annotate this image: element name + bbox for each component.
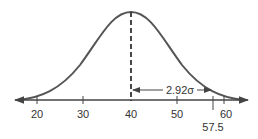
normal-curve-diagram: 2.92σ 20 30 40 50 60 57.5 [0, 0, 258, 139]
marked-value-label: 57.5 [202, 121, 223, 133]
tick-label-20: 20 [31, 108, 43, 120]
tick-label-40: 40 [125, 108, 137, 120]
distance-label: 2.92σ [166, 84, 194, 96]
tick-label-60: 60 [220, 108, 232, 120]
tick-label-50: 50 [171, 108, 183, 120]
tick-label-30: 30 [77, 108, 89, 120]
